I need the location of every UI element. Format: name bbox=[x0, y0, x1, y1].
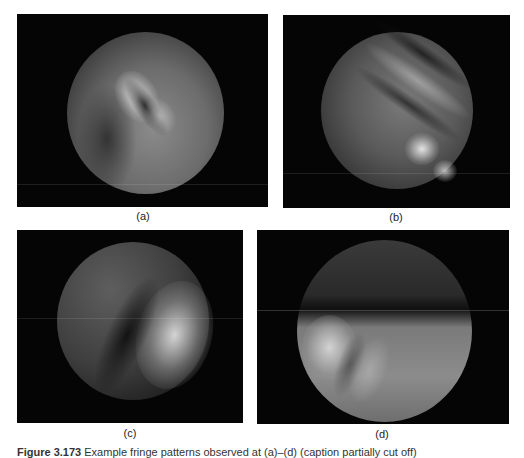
panel-d-image bbox=[257, 230, 509, 424]
panel-a-left-shadow bbox=[77, 84, 137, 194]
panel-a-label: (a) bbox=[123, 210, 163, 222]
panel-c-image bbox=[17, 230, 243, 423]
panel-b-label: (b) bbox=[376, 211, 416, 223]
figure-caption: Figure 3.173 Example fringe patterns obs… bbox=[17, 446, 417, 458]
panel-b-bright-spot-2 bbox=[433, 160, 457, 182]
panel-b-image bbox=[283, 15, 510, 208]
panel-b-bright-spot-1 bbox=[405, 133, 439, 165]
panel-a-image bbox=[17, 14, 268, 207]
figure-caption-text: Example fringe patterns observed at (a)–… bbox=[84, 446, 416, 458]
figure-caption-prefix: Figure 3.173 bbox=[17, 446, 81, 458]
panel-c-label: (c) bbox=[110, 427, 150, 439]
panel-d-label: (d) bbox=[362, 428, 402, 440]
